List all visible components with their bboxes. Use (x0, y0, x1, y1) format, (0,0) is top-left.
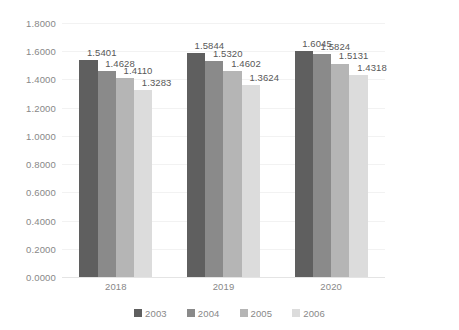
bar-value-label: 1.4602 (231, 58, 261, 69)
x-axis-tick-label: 2018 (105, 281, 127, 292)
y-axis: 1.80001.60001.40001.20001.00000.80000.60… (0, 23, 56, 277)
bar[interactable] (205, 61, 223, 277)
legend-item[interactable]: 2006 (292, 308, 325, 319)
y-axis-tick-label: 1.4000 (0, 74, 56, 85)
legend-item[interactable]: 2004 (187, 308, 220, 319)
legend-item-label: 2003 (145, 308, 167, 319)
legend-swatch-icon (240, 309, 248, 317)
bar[interactable] (242, 85, 260, 277)
legend-item-label: 2004 (198, 308, 220, 319)
legend-item[interactable]: 2005 (240, 308, 273, 319)
bar[interactable] (223, 71, 241, 277)
chart-legend: 2003200420052006 (0, 305, 459, 321)
y-axis-tick-label: 0.4000 (0, 215, 56, 226)
bar-value-label: 1.4110 (124, 65, 153, 76)
bar-value-label: 1.3283 (142, 77, 172, 88)
bar-value-label: 1.5401 (87, 47, 117, 58)
x-axis-tick-label: 2019 (213, 281, 235, 292)
y-axis-tick-label: 1.2000 (0, 102, 56, 113)
legend-swatch-icon (187, 309, 195, 317)
y-axis-tick-label: 1.0000 (0, 130, 56, 141)
bar-value-label: 1.3624 (249, 72, 279, 83)
x-axis: 201820192020 (62, 281, 385, 297)
bar[interactable] (313, 54, 331, 277)
bar[interactable] (295, 51, 313, 277)
bar[interactable] (349, 75, 367, 277)
bar[interactable] (331, 64, 349, 278)
legend-item-label: 2005 (251, 308, 273, 319)
bar-value-label: 1.4318 (357, 62, 387, 73)
legend-item-label: 2006 (303, 308, 325, 319)
bar-value-label: 1.5131 (339, 50, 369, 61)
bar[interactable] (116, 78, 134, 277)
legend-swatch-icon (134, 309, 142, 317)
bar[interactable] (79, 60, 97, 277)
bar[interactable] (187, 53, 205, 277)
y-axis-tick-label: 0.8000 (0, 159, 56, 170)
legend-item[interactable]: 2003 (134, 308, 167, 319)
y-axis-tick-label: 0.0000 (0, 272, 56, 283)
x-axis-tick-label: 2020 (320, 281, 342, 292)
bar[interactable] (98, 71, 116, 277)
y-axis-tick-label: 0.2000 (0, 243, 56, 254)
plot-area: 1.54011.46281.41101.32831.58441.53201.46… (62, 23, 385, 277)
y-axis-tick-label: 1.8000 (0, 18, 56, 29)
y-axis-tick-label: 0.6000 (0, 187, 56, 198)
bar-chart: 1.80001.60001.40001.20001.00000.80000.60… (0, 0, 459, 330)
legend-swatch-icon (292, 309, 300, 317)
gridline (62, 277, 385, 278)
bar[interactable] (134, 90, 152, 277)
y-axis-tick-label: 1.6000 (0, 46, 56, 57)
